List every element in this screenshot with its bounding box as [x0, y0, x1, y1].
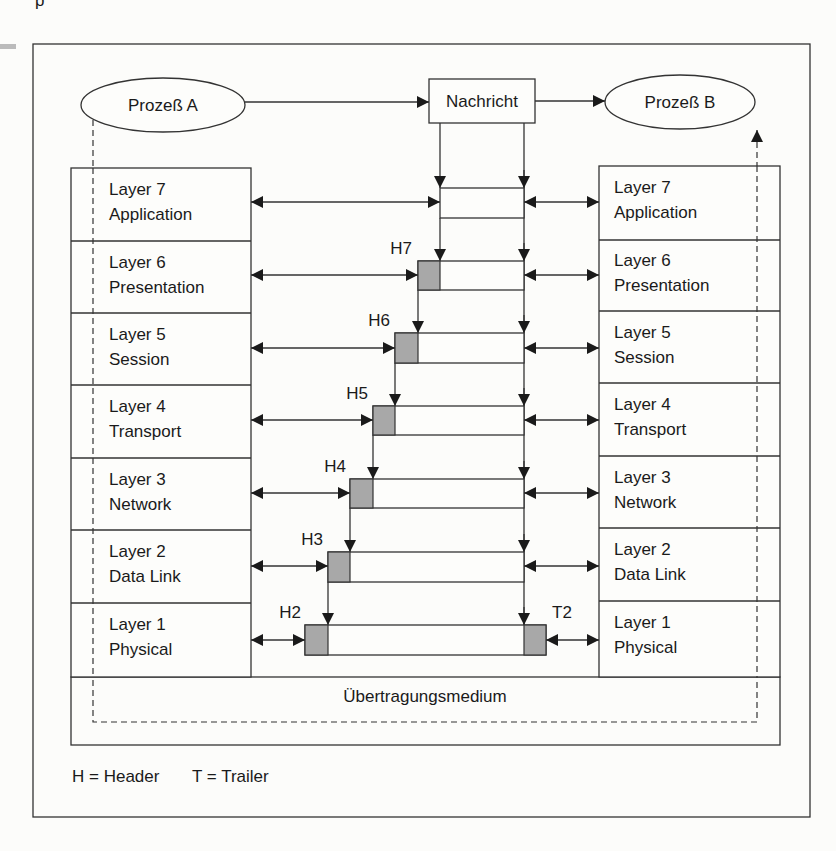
header-block-h3: [328, 552, 350, 582]
margin-mark: [0, 44, 16, 49]
svg-text:Data Link: Data Link: [614, 565, 686, 584]
left-layer-stack: Layer 7Application Layer 6Presentation L…: [71, 168, 251, 677]
header-block-h6: [395, 333, 418, 363]
header-block-h4: [350, 479, 373, 508]
svg-text:Network: Network: [109, 495, 172, 514]
process-a-label: Prozeß A: [128, 96, 199, 115]
transmission-medium: Übertragungsmedium: [71, 677, 780, 745]
svg-text:Layer 2: Layer 2: [109, 542, 166, 561]
svg-text:Presentation: Presentation: [614, 276, 709, 295]
svg-text:Layer 1: Layer 1: [109, 615, 166, 634]
header-label-h2: H2: [279, 603, 301, 622]
svg-text:Transport: Transport: [614, 420, 686, 439]
page-text-fragment: p: [35, 0, 44, 10]
svg-text:Physical: Physical: [109, 640, 172, 659]
svg-text:Layer 4: Layer 4: [109, 397, 166, 416]
svg-text:Layer 5: Layer 5: [109, 325, 166, 344]
header-label-h7: H7: [390, 239, 412, 258]
svg-text:Layer 7: Layer 7: [109, 180, 166, 199]
svg-text:Application: Application: [109, 205, 192, 224]
process-b-label: Prozeß B: [645, 93, 716, 112]
svg-text:Presentation: Presentation: [109, 278, 204, 297]
header-label-h4: H4: [324, 457, 346, 476]
process-a: Prozeß A: [81, 78, 245, 132]
svg-text:Transport: Transport: [109, 422, 181, 441]
header-label-h5: H5: [346, 384, 368, 403]
svg-text:Network: Network: [614, 493, 677, 512]
svg-text:Session: Session: [614, 348, 674, 367]
svg-text:Layer 1: Layer 1: [614, 613, 671, 632]
right-layer-stack: Layer 7Application Layer 6Presentation L…: [599, 166, 780, 677]
svg-text:Layer 3: Layer 3: [614, 468, 671, 487]
legend-trailer: T = Trailer: [192, 767, 269, 786]
process-b: Prozeß B: [605, 75, 755, 129]
svg-text:Session: Session: [109, 350, 169, 369]
trailer-label-t2: T2: [552, 603, 572, 622]
encapsulation-column: H7 H6 H5 H4 H3 H2 T2: [279, 123, 572, 655]
message-box: Nachricht: [429, 79, 535, 123]
header-block-h5: [373, 406, 395, 435]
legend: H = Header T = Trailer: [72, 767, 269, 786]
right-peer-arrows: [524, 202, 599, 640]
legend-header: H = Header: [72, 767, 160, 786]
svg-text:Layer 2: Layer 2: [614, 540, 671, 559]
trailer-block-t2: [524, 625, 546, 655]
svg-text:Physical: Physical: [614, 638, 677, 657]
svg-text:Layer 7: Layer 7: [614, 178, 671, 197]
svg-text:Layer 3: Layer 3: [109, 470, 166, 489]
header-block-h7: [418, 261, 440, 290]
message-label: Nachricht: [446, 92, 518, 111]
osi-encapsulation-diagram: p Prozeß A Prozeß B Nachricht Übertragun…: [0, 0, 836, 851]
svg-text:Layer 5: Layer 5: [614, 323, 671, 342]
medium-label: Übertragungsmedium: [343, 687, 506, 706]
header-label-h6: H6: [368, 311, 390, 330]
header-block-h2: [305, 625, 328, 655]
svg-text:Data Link: Data Link: [109, 567, 181, 586]
svg-text:Layer 4: Layer 4: [614, 395, 671, 414]
svg-text:Application: Application: [614, 203, 697, 222]
header-label-h3: H3: [301, 530, 323, 549]
svg-text:Layer 6: Layer 6: [614, 251, 671, 270]
svg-text:Layer 6: Layer 6: [109, 253, 166, 272]
